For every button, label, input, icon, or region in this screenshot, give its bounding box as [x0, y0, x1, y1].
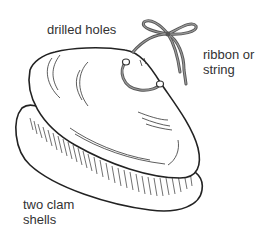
clam-shell-diagram: drilled holes ribbon or string two clam …: [0, 0, 273, 234]
hole-icon: [123, 59, 130, 65]
label-drilled-holes: drilled holes: [47, 22, 116, 37]
label-clam-line1: two clam: [23, 197, 74, 212]
label-clam-line2: shells: [23, 212, 74, 227]
label-ribbon-line1: ribbon or: [203, 47, 254, 62]
knot-icon: [166, 32, 171, 37]
label-two-clam-shells: two clam shells: [23, 197, 74, 227]
label-ribbon-or-string: ribbon or string: [203, 47, 254, 77]
label-ribbon-line2: string: [203, 62, 254, 77]
hole-icon: [157, 81, 164, 87]
